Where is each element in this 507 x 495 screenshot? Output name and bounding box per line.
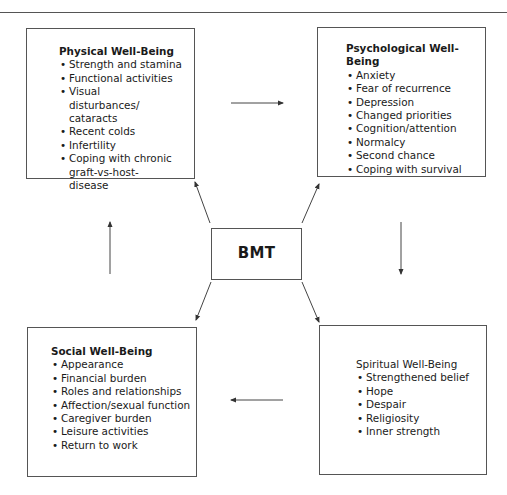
arrow-bmt-to-physical bbox=[195, 182, 210, 223]
arrow-bmt-to-spiritual bbox=[302, 282, 319, 322]
arrow-bmt-to-psychological bbox=[302, 184, 319, 223]
arrows-layer bbox=[0, 0, 507, 495]
arrow-bmt-to-social bbox=[196, 282, 211, 320]
